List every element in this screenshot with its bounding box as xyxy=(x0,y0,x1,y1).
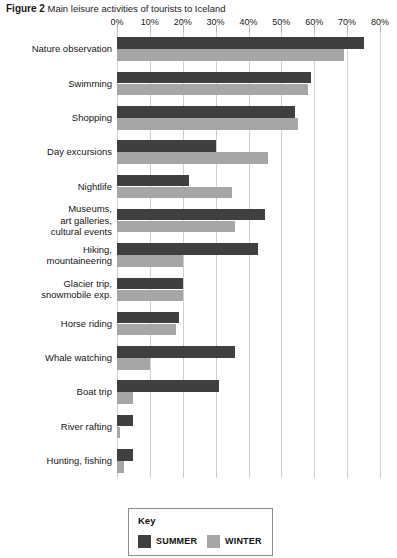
legend-label-winter: WINTER xyxy=(225,536,262,546)
category-label-line: Whale watching xyxy=(4,352,112,364)
gridline xyxy=(216,32,217,478)
x-tick-mark xyxy=(347,25,348,32)
bar-winter xyxy=(117,49,344,61)
x-axis-tick-labels: 0%10%20%30%40%50%60%70%80% xyxy=(0,16,397,30)
category-label-line: Museums, xyxy=(4,203,112,215)
category-label-line: Shopping xyxy=(4,112,112,124)
legend-label-summer: SUMMER xyxy=(156,536,197,546)
bar-summer xyxy=(117,209,265,221)
category-label: Nightlife xyxy=(4,181,112,193)
bar-winter xyxy=(117,118,298,130)
category-label-line: mountaineering xyxy=(4,255,112,267)
figure-label: Figure 2 xyxy=(6,3,45,14)
category-label: Hiking,mountaineering xyxy=(4,244,112,267)
bar-winter xyxy=(117,290,183,302)
category-label-line: Hiking, xyxy=(4,244,112,256)
bar-winter xyxy=(117,358,150,370)
gridline xyxy=(380,32,381,478)
bar-summer xyxy=(117,415,133,427)
bar-winter xyxy=(117,392,133,404)
bar-winter xyxy=(117,461,124,473)
category-label-line: Hunting, fishing xyxy=(4,455,112,467)
plot-area xyxy=(117,32,380,478)
bar-summer xyxy=(117,449,133,461)
category-label: Hunting, fishing xyxy=(4,455,112,467)
bar-summer xyxy=(117,380,219,392)
category-label-line: cultural events xyxy=(4,226,112,238)
category-label: Boat trip xyxy=(4,386,112,398)
x-tick-mark xyxy=(281,25,282,32)
gridline xyxy=(347,32,348,478)
x-tick-mark xyxy=(150,25,151,32)
bar-winter xyxy=(117,84,308,96)
x-tick-mark xyxy=(249,25,250,32)
x-tick-mark xyxy=(380,25,381,32)
category-label-line: River rafting xyxy=(4,421,112,433)
bar-summer xyxy=(117,140,216,152)
figure-caption-text: Main leisure activities of tourists to I… xyxy=(48,3,226,14)
gridline xyxy=(281,32,282,478)
category-label: Shopping xyxy=(4,112,112,124)
category-label-line: art galleries, xyxy=(4,215,112,227)
bar-summer xyxy=(117,278,183,290)
bar-winter xyxy=(117,221,235,233)
bar-winter xyxy=(117,427,120,439)
category-label: Nature observation xyxy=(4,43,112,55)
legend-box: Key SUMMER WINTER xyxy=(128,508,273,556)
gridline xyxy=(249,32,250,478)
bar-summer xyxy=(117,312,179,324)
category-label-line: Nightlife xyxy=(4,181,112,193)
x-tick-mark xyxy=(314,25,315,32)
category-label: Horse riding xyxy=(4,318,112,330)
x-tick-mark xyxy=(117,25,118,32)
category-label: Museums,art galleries,cultural events xyxy=(4,203,112,238)
legend-title: Key xyxy=(138,515,155,526)
category-label-line: snowmobile exp. xyxy=(4,289,112,301)
x-tick-mark xyxy=(183,25,184,32)
bar-winter xyxy=(117,152,268,164)
category-label-line: Glacier trip, xyxy=(4,278,112,290)
bar-summer xyxy=(117,106,295,118)
category-label-line: Boat trip xyxy=(4,386,112,398)
bar-summer xyxy=(117,37,364,49)
summer-swatch-icon xyxy=(138,535,151,548)
bar-winter xyxy=(117,255,183,267)
gridline xyxy=(314,32,315,478)
category-label: Whale watching xyxy=(4,352,112,364)
category-label: Day excursions xyxy=(4,146,112,158)
y-axis-category-labels: Nature observationSwimmingShoppingDay ex… xyxy=(0,32,112,478)
category-label-line: Horse riding xyxy=(4,318,112,330)
category-label-line: Swimming xyxy=(4,78,112,90)
bar-summer xyxy=(117,175,189,187)
figure-caption: Figure 2 Main leisure activities of tour… xyxy=(6,2,391,15)
bar-winter xyxy=(117,187,232,199)
bar-summer xyxy=(117,346,235,358)
category-label: Swimming xyxy=(4,78,112,90)
category-label-line: Day excursions xyxy=(4,146,112,158)
bar-winter xyxy=(117,324,176,336)
category-label-line: Nature observation xyxy=(4,43,112,55)
bar-summer xyxy=(117,243,258,255)
category-label: Glacier trip,snowmobile exp. xyxy=(4,278,112,301)
bar-chart: 0%10%20%30%40%50%60%70%80% Nature observ… xyxy=(0,16,397,494)
bar-summer xyxy=(117,72,311,84)
winter-swatch-icon xyxy=(207,535,220,548)
category-label: River rafting xyxy=(4,421,112,433)
x-tick-mark xyxy=(216,25,217,32)
gridline xyxy=(183,32,184,478)
